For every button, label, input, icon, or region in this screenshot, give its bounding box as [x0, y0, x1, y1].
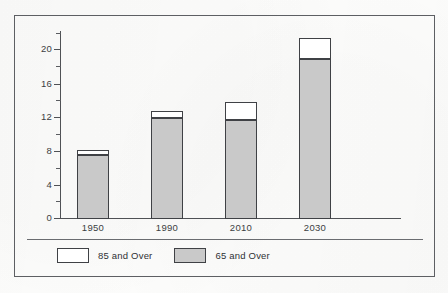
- legend-label-65-and-over: 65 and Over: [215, 250, 269, 261]
- legend-label-85-and-over: 85 and Over: [98, 250, 152, 261]
- figure-page: 20 16 12 8 4 0: [0, 0, 448, 293]
- chart-legend: 85 and Over 65 and Over: [57, 248, 270, 263]
- gray-swatch-icon: [174, 248, 206, 263]
- figure-border: [14, 15, 435, 277]
- white-swatch-icon: [57, 248, 89, 263]
- legend-divider: [27, 239, 423, 240]
- legend-item-65-and-over: 65 and Over: [174, 248, 269, 263]
- legend-item-85-and-over: 85 and Over: [57, 248, 152, 263]
